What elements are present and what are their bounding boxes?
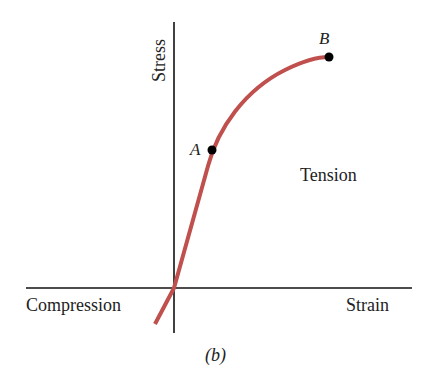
point-b-marker	[325, 53, 334, 62]
strain-axis-label: Strain	[346, 295, 389, 315]
figure-caption: (b)	[205, 345, 226, 366]
point-a-marker	[208, 146, 217, 155]
point-b-label: B	[319, 29, 330, 48]
tension-label: Tension	[300, 165, 357, 185]
diagram-canvas: A B Stress Tension Compression Strain (b…	[0, 0, 433, 392]
compression-label: Compression	[26, 295, 121, 315]
stress-strain-curve	[155, 57, 329, 324]
stress-strain-diagram: A B Stress Tension Compression Strain (b…	[0, 0, 433, 392]
stress-axis-label: Stress	[149, 39, 169, 82]
point-a-label: A	[189, 140, 201, 159]
